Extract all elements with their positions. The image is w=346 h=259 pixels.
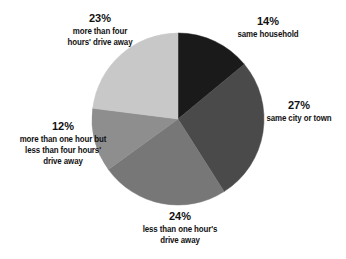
pie-slice-group [92,33,264,205]
slice-label-one-to-four-hours: 12% more than one hour but less than fou… [4,121,122,167]
slice-text-less-than-one-hour-line1: less than one hour's [126,224,234,235]
slice-label-same-city: 27% same city or town [252,100,346,124]
slice-percent-more-than-four-hours: 23% [42,13,158,24]
slice-text-more-than-four-hours-line1: more than four [46,26,154,37]
slice-label-less-than-one-hour: 24% less than one hour's drive away [122,211,238,246]
slice-text-one-to-four-hours-line2: less than four hours' [8,145,118,156]
slice-percent-less-than-one-hour: 24% [122,211,238,222]
slice-percent-one-to-four-hours: 12% [4,121,122,132]
slice-text-more-than-four-hours-line2: hours' drive away [46,37,154,48]
slice-label-same-household: 14% same household [216,16,320,40]
slice-percent-same-city: 27% [252,100,346,111]
slice-text-less-than-one-hour-line2: drive away [126,235,234,246]
slice-text-one-to-four-hours-line1: more than one hour but [8,134,118,145]
pie-chart-figure: 14% same household 27% same city or town… [0,0,346,259]
slice-label-more-than-four-hours: 23% more than four hours' drive away [42,13,158,48]
slice-text-one-to-four-hours-line3: drive away [8,156,118,167]
slice-percent-same-household: 14% [216,16,320,27]
slice-text-same-city-line1: same city or town [255,113,342,124]
slice-text-same-household-line1: same household [220,29,317,40]
